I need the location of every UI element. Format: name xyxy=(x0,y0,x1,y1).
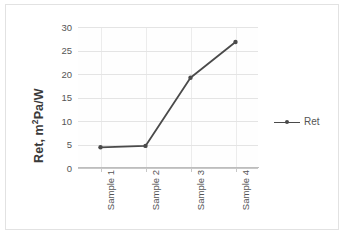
y-tick-label: 5 xyxy=(50,140,72,149)
y-tick-label: 30 xyxy=(50,23,72,32)
data-point xyxy=(188,76,192,80)
x-axis-tick xyxy=(146,168,147,172)
data-point xyxy=(143,144,147,148)
x-axis-line xyxy=(78,167,259,168)
plot-area xyxy=(78,27,258,168)
y-axis-title-tail: Pa/W xyxy=(32,88,46,119)
y-axis-tick-labels: 051015202530 xyxy=(50,22,72,168)
chart-legend: Ret xyxy=(274,117,320,127)
y-tick-label: 20 xyxy=(50,70,72,79)
x-axis-tick xyxy=(101,168,102,172)
gridline-horizontal xyxy=(78,168,258,169)
x-axis-category-labels: Sample 1Sample 2Sample 3Sample 4 xyxy=(78,172,259,234)
data-point xyxy=(98,145,102,149)
data-point xyxy=(233,40,237,44)
series-ret-line xyxy=(78,27,258,168)
x-axis-tick xyxy=(236,168,237,172)
y-axis-title-text: Ret, m xyxy=(32,124,46,163)
legend-item-ret: Ret xyxy=(304,117,320,127)
x-category-label: Sample 1 xyxy=(105,170,116,232)
x-category-label: Sample 2 xyxy=(150,170,161,232)
chart-container: Ret, m2Pa/W 051015202530 Sample 1Sample … xyxy=(5,4,339,230)
x-category-label: Sample 4 xyxy=(240,170,251,232)
y-axis-title-superscript: 2 xyxy=(30,119,40,124)
x-axis-tick xyxy=(191,168,192,172)
series-line-ret xyxy=(101,42,236,147)
y-axis-title: Ret, m2Pa/W xyxy=(30,33,48,163)
legend-marker-icon xyxy=(274,117,300,127)
y-tick-label: 25 xyxy=(50,46,72,55)
y-tick-label: 10 xyxy=(50,117,72,126)
x-category-label: Sample 3 xyxy=(195,170,206,232)
y-tick-label: 15 xyxy=(50,93,72,102)
y-tick-label: 0 xyxy=(50,164,72,173)
